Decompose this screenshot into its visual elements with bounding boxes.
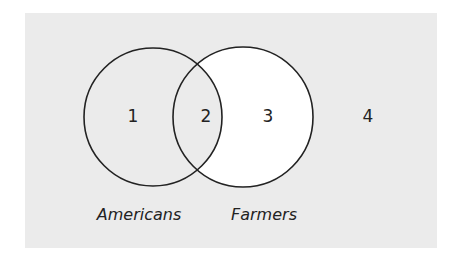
region-3-label: 3 — [263, 106, 274, 126]
farmers-label: Farmers — [231, 205, 297, 224]
americans-label: Americans — [96, 205, 181, 224]
venn-diagram: 1 2 3 4 Americans Farmers — [0, 0, 455, 260]
region-1-label: 1 — [128, 106, 139, 126]
region-4-label: 4 — [363, 106, 374, 126]
region-2-label: 2 — [201, 106, 212, 126]
